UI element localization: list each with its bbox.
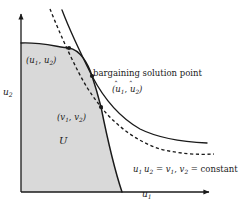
eq-operator-2: = [191, 164, 198, 174]
point-sub-2: 2 [79, 117, 83, 123]
eq-rhs-sub-1: 1 [171, 169, 175, 175]
eq-rhs-sub-2: 2 [184, 169, 188, 175]
bargaining-diagram-figure: u2 u1 U (u1, u2) (v1, v2) bargaining sol… [0, 0, 251, 209]
annotation-solution-title: bargaining solution point [93, 69, 202, 78]
point-label-pareto-u: (u1, u2) [26, 56, 56, 65]
annotation-equation: u1u2 = v1, v2 = constant [133, 165, 238, 174]
eq-operator-1: = [156, 164, 163, 174]
diagram-canvas [0, 0, 251, 209]
point-sub-1: 1 [121, 89, 125, 95]
eq-rhs-var-1: v [166, 164, 171, 174]
point-label-status-quo-v: (v1, v2) [57, 113, 86, 122]
point-sub-1: 1 [35, 60, 39, 66]
point-var-1: u [115, 84, 120, 94]
x-axis-label: u1 [142, 190, 152, 199]
x-axis-label-sub: 1 [148, 193, 152, 200]
eq-lhs-var-2: u [144, 164, 149, 174]
y-axis-label: u2 [3, 88, 13, 97]
point-label-bargaining-solution: (̂u1, ̂u2) [112, 85, 142, 94]
y-axis-label-sub: 2 [9, 91, 13, 98]
point-sub-2: 2 [49, 60, 53, 66]
point-sub-1: 1 [65, 117, 69, 123]
eq-constant: constant [201, 164, 238, 174]
x-axis-label-var: u [142, 189, 148, 199]
hat-var-1: ̂u [115, 85, 120, 94]
y-axis-label-var: u [3, 87, 9, 97]
marker-pareto-point-u [67, 46, 71, 50]
point-var-1: u [29, 55, 34, 65]
paren-close: ) [83, 112, 86, 122]
point-sub-2: 2 [135, 89, 139, 95]
paren-close: ) [53, 55, 56, 65]
marker-status-quo-point-v [99, 105, 103, 109]
region-label-u: U [59, 136, 67, 146]
eq-lhs-sub-1: 1 [138, 169, 142, 175]
eq-lhs-sub-2: 2 [150, 169, 154, 175]
paren-close: ) [139, 84, 142, 94]
